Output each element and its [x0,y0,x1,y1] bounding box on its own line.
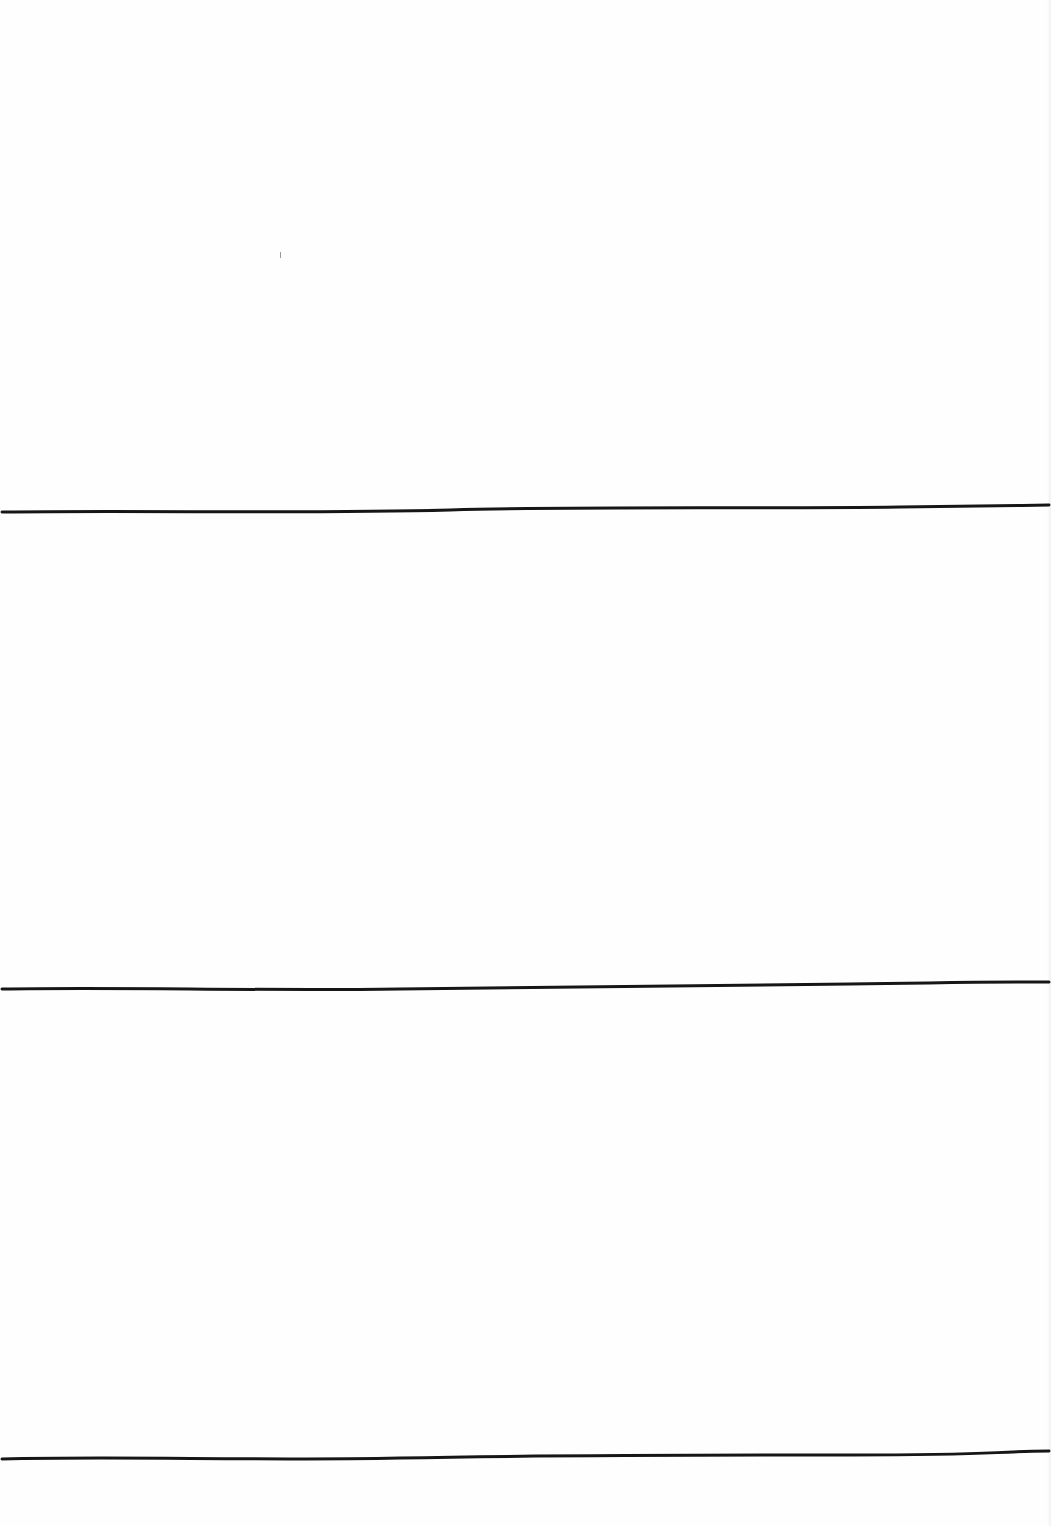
horizontal-rule-3 [2,1451,1049,1459]
horizontal-rule-1 [2,505,1049,512]
blank-ruled-page [0,0,1051,1526]
scan-speck [280,252,281,258]
ruled-lines [0,0,1051,1526]
horizontal-rule-2 [2,982,1049,990]
